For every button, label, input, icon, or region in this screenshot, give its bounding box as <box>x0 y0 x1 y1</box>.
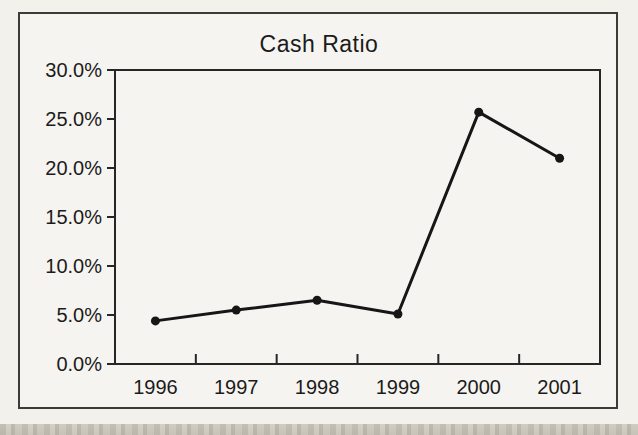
data-point-1998 <box>313 296 322 305</box>
x-axis-tick-label: 2000 <box>457 376 502 398</box>
x-axis-tick-label: 1998 <box>295 376 340 398</box>
cash-ratio-line-chart: 0.0%5.0%10.0%15.0%20.0%25.0%30.0%1996199… <box>0 0 638 435</box>
y-axis-tick-label: 25.0% <box>45 108 102 130</box>
x-axis-tick-label: 2001 <box>537 376 582 398</box>
data-point-1996 <box>151 316 160 325</box>
data-point-1999 <box>393 310 402 319</box>
data-point-2001 <box>555 154 564 163</box>
x-axis-tick-label: 1997 <box>214 376 259 398</box>
y-axis-tick-label: 15.0% <box>45 206 102 228</box>
data-point-1997 <box>232 306 241 315</box>
y-axis-tick-label: 0.0% <box>56 353 102 375</box>
scanned-chart-page: Cash Ratio 0.0%5.0%10.0%15.0%20.0%25.0%3… <box>0 0 638 435</box>
cash-ratio-series-line <box>155 112 559 321</box>
plot-area-border <box>115 70 600 364</box>
x-axis-tick-label: 1999 <box>376 376 421 398</box>
y-axis-tick-label: 30.0% <box>45 59 102 81</box>
y-axis-tick-label: 5.0% <box>56 304 102 326</box>
y-axis-tick-label: 20.0% <box>45 157 102 179</box>
data-point-2000 <box>474 108 483 117</box>
x-axis-tick-label: 1996 <box>133 376 178 398</box>
scan-artifact-strip <box>0 424 638 435</box>
y-axis-tick-label: 10.0% <box>45 255 102 277</box>
